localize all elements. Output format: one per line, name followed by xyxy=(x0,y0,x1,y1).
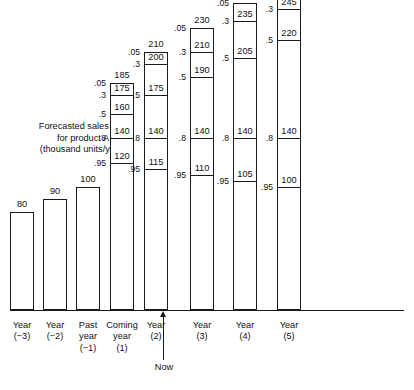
fractile-prob-6-p95: .95 xyxy=(166,171,186,180)
fractile-prob-5-p05: .05 xyxy=(120,48,140,57)
fractile-line-8-p3 xyxy=(277,9,301,10)
now-marker-label: Now xyxy=(143,362,185,372)
fractile-prob-4-p5: .5 xyxy=(86,110,106,119)
bar-1 xyxy=(10,212,34,310)
fractile-value-8-p95: 100 xyxy=(277,176,301,185)
fractile-line-5-p5 xyxy=(144,95,168,96)
chart-title-line-3: (thousand units/year) xyxy=(8,144,158,156)
fractile-prob-4-p8: .8 xyxy=(86,134,106,143)
fractile-prob-8-p8: .8 xyxy=(253,134,273,143)
fractile-prob-6-p05: .05 xyxy=(166,24,186,33)
fractile-prob-5-p8: .8 xyxy=(120,134,140,143)
bar-top-value-2: 90 xyxy=(39,187,71,196)
fractile-value-5-p95: 115 xyxy=(144,158,168,167)
now-marker-stem xyxy=(163,316,164,360)
fractile-prob-8-p5: .5 xyxy=(253,36,273,45)
fractile-value-7-p95: 105 xyxy=(233,170,257,179)
fractile-prob-6-p8: .8 xyxy=(166,134,186,143)
fractile-line-8-p8 xyxy=(277,138,301,139)
x-axis-label-5: Year(2) xyxy=(130,320,182,343)
fractile-prob-6-p5: .5 xyxy=(166,73,186,82)
baseline-axis xyxy=(10,310,404,311)
bar-top-value-1: 80 xyxy=(6,200,38,209)
fractile-prob-5-p95: .95 xyxy=(120,165,140,174)
fractile-prob-4-p3: .3 xyxy=(86,91,106,100)
fractile-value-8-p8: 140 xyxy=(277,127,301,136)
now-marker-arrow-icon xyxy=(160,311,166,317)
fractile-prob-7-p95: .95 xyxy=(209,177,229,186)
bar-top-value-4: 185 xyxy=(106,71,138,80)
fractile-value-8-p3: 245 xyxy=(277,0,301,7)
forecast-fractile-chart: Forecasted sales rate for product A (tho… xyxy=(0,0,414,390)
fractile-prob-8-p3: .3 xyxy=(253,5,273,14)
fractile-value-6-p95: 110 xyxy=(190,164,214,173)
fractile-line-8-p95 xyxy=(277,187,301,188)
bar-8 xyxy=(277,0,301,310)
bar-3 xyxy=(76,187,100,310)
fractile-prob-7-p5: .5 xyxy=(209,54,229,63)
fractile-prob-6-p3: .3 xyxy=(166,48,186,57)
fractile-value-4-p95: 120 xyxy=(110,152,134,161)
fractile-line-7-p95 xyxy=(233,181,257,182)
fractile-prob-4-p05: .05 xyxy=(86,79,106,88)
fractile-line-5-p3 xyxy=(144,64,168,65)
fractile-value-5-p8: 140 xyxy=(144,127,168,136)
fractile-prob-8-p95: .95 xyxy=(253,183,273,192)
fractile-prob-7-p3: .3 xyxy=(209,17,229,26)
bar-2 xyxy=(43,199,67,310)
fractile-line-6-p3 xyxy=(190,52,214,53)
fractile-line-5-p95 xyxy=(144,169,168,170)
fractile-prob-5-p5: .5 xyxy=(120,91,140,100)
bar-4 xyxy=(110,83,134,310)
fractile-line-5-p8 xyxy=(144,138,168,139)
fractile-prob-7-p05: .05 xyxy=(209,0,229,8)
fractile-value-5-p3: 200 xyxy=(144,53,168,62)
fractile-prob-5-p3: .3 xyxy=(120,60,140,69)
fractile-value-7-p5: 205 xyxy=(233,47,257,56)
fractile-value-4-p5: 160 xyxy=(110,103,134,112)
fractile-prob-4-p95: .95 xyxy=(86,159,106,168)
x-axis-label-8: Year(5) xyxy=(263,320,315,343)
fractile-value-6-p3: 210 xyxy=(190,41,214,50)
fractile-line-6-p5 xyxy=(190,77,214,78)
bar-top-value-3: 100 xyxy=(72,175,104,184)
chart-title-line-1: Forecasted sales rate xyxy=(8,121,158,133)
fractile-line-7-p5 xyxy=(233,58,257,59)
fractile-prob-7-p8: .8 xyxy=(209,134,229,143)
fractile-value-5-p5: 175 xyxy=(144,84,168,93)
fractile-value-8-p5: 220 xyxy=(277,29,301,38)
fractile-value-6-p5: 190 xyxy=(190,66,214,75)
fractile-line-6-p95 xyxy=(190,175,214,176)
fractile-line-4-p5 xyxy=(110,114,134,115)
fractile-line-8-p5 xyxy=(277,40,301,41)
fractile-line-7-p3 xyxy=(233,21,257,22)
